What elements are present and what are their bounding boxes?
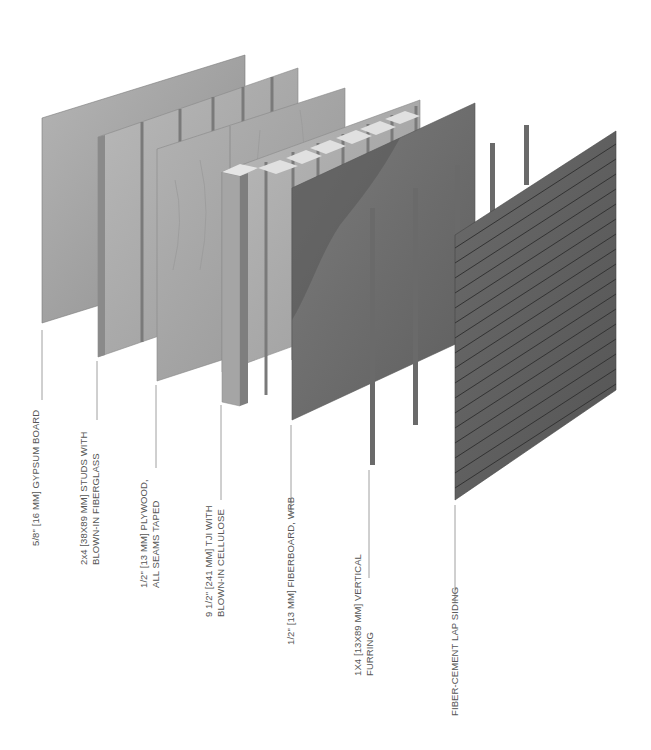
label-tji: 9 1/2" [241 MM] TJI WITH BLOWN-IN CELLUL…: [203, 505, 227, 617]
siding-layer: [455, 131, 616, 500]
label-siding: FIBER-CEMENT LAP SIDING: [449, 587, 461, 716]
label-fiberboard: 1/2" [13 MM] FIBERBOARD, WRB: [285, 497, 297, 645]
label-gypsum-board: 5/8" [16 MM] GYPSUM BOARD: [30, 410, 42, 546]
label-plywood: 1/2" [13 MM] PLYWOOD, ALL SEAMS TAPED: [138, 479, 162, 588]
label-line: FIBER-CEMENT LAP SIDING: [449, 587, 461, 716]
label-studs: 2x4 [38X89 MM] STUDS WITH BLOWN-IN FIBER…: [78, 432, 102, 565]
label-line: 1/2" [13 MM] FIBERBOARD, WRB: [285, 497, 297, 645]
label-line: BLOWN-IN FIBERGLASS: [90, 432, 102, 565]
label-furring: 1X4 [13X89 MM] VERTICAL FURRING: [352, 554, 376, 676]
label-line: 1/2" [13 MM] PLYWOOD,: [138, 479, 150, 588]
label-line: 1X4 [13X89 MM] VERTICAL: [352, 554, 364, 676]
label-line: 2x4 [38X89 MM] STUDS WITH: [78, 432, 90, 565]
wall-assembly-diagram: [0, 0, 651, 750]
label-line: BLOWN-IN CELLULOSE: [215, 505, 227, 617]
label-line: ALL SEAMS TAPED: [150, 479, 162, 588]
label-line: 9 1/2" [241 MM] TJI WITH: [203, 505, 215, 617]
label-line: 5/8" [16 MM] GYPSUM BOARD: [30, 410, 42, 546]
label-line: FURRING: [364, 554, 376, 676]
